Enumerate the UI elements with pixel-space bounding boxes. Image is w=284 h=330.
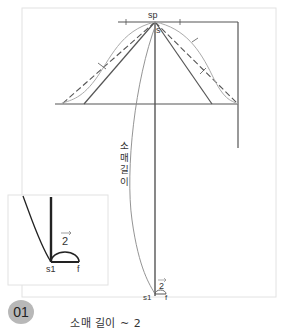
- label-half-main: 2: [159, 281, 164, 291]
- step-number-badge: 01: [8, 300, 34, 324]
- label-sleeve-length-char-4: 이: [120, 176, 129, 187]
- step-caption: 소매 길이 ~ 2: [70, 314, 141, 330]
- label-sp: sp: [148, 10, 158, 20]
- inset-box: [8, 195, 108, 285]
- label-s1-main: s1: [143, 293, 152, 302]
- label-s1-inset: s1: [46, 264, 56, 274]
- label-s: s: [156, 25, 161, 35]
- label-half-inset: 2: [62, 235, 68, 247]
- label-sleeve-length-char-3: 길: [120, 164, 129, 175]
- label-sleeve-length-char-2: 매: [120, 152, 129, 163]
- label-sleeve-length-char-1: 소: [120, 140, 129, 151]
